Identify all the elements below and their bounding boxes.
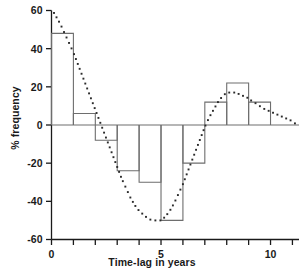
- curve-dot: [86, 88, 88, 90]
- frequency-timelag-chart: -60-40-2002040600510: [0, 0, 304, 273]
- curve-dot: [238, 93, 240, 95]
- curve-dot: [141, 213, 143, 215]
- curve-dot: [77, 63, 79, 65]
- y-axis-title: % frequency: [9, 70, 21, 166]
- curve-dot: [259, 105, 261, 107]
- curve-dot: [132, 201, 134, 203]
- x-axis-title: Time-lag in years: [0, 256, 304, 268]
- curve-dot: [276, 114, 278, 116]
- curve-dot: [114, 161, 116, 163]
- curve-dot: [103, 132, 105, 134]
- curve-dot: [166, 213, 168, 215]
- curve-dot: [207, 119, 209, 121]
- curve-dot: [53, 12, 55, 14]
- curve-dot: [109, 146, 111, 148]
- curve-dot: [233, 92, 235, 94]
- y-axis-tick-label: 20: [31, 81, 43, 93]
- curve-dot: [189, 164, 191, 166]
- curve-dot: [195, 149, 197, 151]
- curve-dot: [92, 102, 94, 104]
- y-axis-tick-label: -60: [27, 233, 42, 245]
- curve-dot: [56, 16, 58, 18]
- curve-dot: [210, 114, 212, 116]
- curve-dot: [73, 53, 75, 55]
- curve-dot: [172, 204, 174, 206]
- curve-dot: [188, 168, 190, 170]
- curve-dot: [224, 93, 226, 95]
- curve-dot: [111, 151, 113, 153]
- curve-dot: [174, 200, 176, 202]
- curve-dot: [134, 205, 136, 207]
- curve-dot: [186, 173, 188, 175]
- y-axis-tick-label: 0: [37, 119, 43, 131]
- curve-dot: [63, 31, 65, 33]
- curve-dot: [58, 21, 60, 23]
- curve-dot: [138, 209, 140, 211]
- curve-dot: [163, 217, 165, 219]
- curve-dot: [90, 97, 92, 99]
- bar-series: [52, 33, 271, 220]
- curve-dot: [242, 95, 244, 97]
- y-axis-tick-label: 40: [31, 43, 43, 55]
- curve-dot: [124, 186, 126, 188]
- curve-dot: [66, 37, 68, 39]
- curve-dot: [118, 171, 120, 173]
- y-axis-tick-label: -40: [27, 195, 42, 207]
- curve-dot: [71, 47, 73, 49]
- histogram-bar: [227, 83, 249, 125]
- curve-dot: [82, 78, 84, 80]
- curve-dot: [105, 137, 107, 139]
- histogram-bar: [73, 114, 95, 125]
- curve-dot: [129, 197, 131, 199]
- curve-dot: [154, 219, 156, 221]
- curve-dot: [184, 178, 186, 180]
- curve-dot: [97, 117, 99, 119]
- curve-dot: [145, 216, 147, 218]
- curve-dot: [116, 166, 118, 168]
- y-axis-tick-label: -20: [27, 157, 42, 169]
- curve-dot: [99, 122, 101, 124]
- histogram-bar: [183, 125, 205, 163]
- curve-dot: [96, 112, 98, 114]
- curve-dot: [263, 108, 265, 110]
- curve-dot: [290, 119, 292, 121]
- curve-dot: [81, 73, 83, 75]
- curve-dot: [94, 107, 96, 109]
- curve-dot: [120, 176, 122, 178]
- curve-dot: [228, 92, 230, 94]
- curve-dot: [107, 141, 109, 143]
- histogram-bar: [117, 125, 139, 171]
- curve-dot: [281, 116, 283, 118]
- curve-dot: [250, 100, 252, 102]
- curve-dot: [201, 134, 203, 136]
- curve-dot: [159, 219, 161, 221]
- curve-dot: [212, 110, 214, 112]
- curve-dot: [169, 209, 171, 211]
- curve-dot: [220, 97, 222, 99]
- curve-dot: [268, 110, 270, 112]
- curve-dot: [255, 102, 257, 104]
- curve-dot: [182, 183, 184, 185]
- curve-dot: [193, 154, 195, 156]
- curve-dot: [101, 127, 103, 129]
- curve-dot: [246, 97, 248, 99]
- curve-dot: [75, 58, 77, 60]
- curve-dot: [215, 106, 217, 108]
- histogram-bar: [139, 125, 161, 182]
- curve-dot: [285, 118, 287, 120]
- y-axis-tick-label: 60: [31, 4, 43, 16]
- histogram-bar: [52, 33, 74, 125]
- curve-dot: [217, 101, 219, 103]
- curve-dot: [127, 191, 129, 193]
- curve-dot: [191, 159, 193, 161]
- curve-dot: [272, 112, 274, 114]
- curve-dot: [122, 180, 124, 182]
- curve-dot: [113, 156, 115, 158]
- curve-dot: [179, 189, 181, 191]
- curve-dot: [68, 42, 70, 44]
- curve-dot: [177, 194, 179, 196]
- curve-dot: [84, 83, 86, 85]
- chart-figure: -60-40-2002040600510 % frequency Time-la…: [0, 0, 304, 273]
- curve-dot: [61, 26, 63, 28]
- curve-dot: [199, 139, 201, 141]
